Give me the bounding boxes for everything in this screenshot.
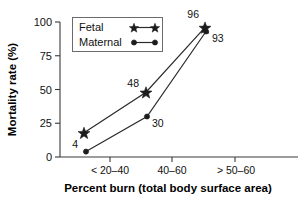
y-tick-label-0: 0 xyxy=(46,151,52,163)
x-category-label-1: 40–60 xyxy=(157,164,186,176)
y-axis-title: Mortality rate (%) xyxy=(6,43,18,136)
legend-label-fetal: Fetal xyxy=(79,21,103,33)
y-tick-label-75: 75 xyxy=(40,50,52,62)
chart-legend[interactable]: Fetal Maternal xyxy=(73,18,163,52)
maternal-marker-1 xyxy=(144,114,149,119)
point-label-maternal-high: 93 xyxy=(212,32,224,44)
y-tick-label-100: 100 xyxy=(34,16,52,28)
chart-canvas: 100 75 50 25 0 Mortality rate (%) < 20–4… xyxy=(0,0,305,204)
point-label-maternal-low: 4 xyxy=(72,138,78,150)
maternal-marker-0 xyxy=(83,149,88,154)
point-label-fetal-high: 96 xyxy=(187,8,199,20)
y-tick-label-25: 25 xyxy=(40,117,52,129)
point-label-fetal-mid: 48 xyxy=(127,77,139,89)
y-axis xyxy=(55,22,60,157)
point-label-maternal-mid: 30 xyxy=(152,117,164,129)
x-category-label-2: > 50–60 xyxy=(217,164,255,176)
x-axis-title: Percent burn (total body surface area) xyxy=(64,182,272,194)
legend-circle-marker-right xyxy=(152,40,157,45)
y-tick-label-50: 50 xyxy=(40,84,52,96)
legend-circle-marker-left xyxy=(131,40,136,45)
mortality-rate-line-chart: 100 75 50 25 0 Mortality rate (%) < 20–4… xyxy=(0,0,305,204)
legend-label-maternal: Maternal xyxy=(79,36,122,48)
x-category-label-0: < 20–40 xyxy=(91,164,129,176)
fetal-marker-0 xyxy=(78,127,90,138)
x-axis xyxy=(60,157,298,162)
maternal-marker-2 xyxy=(203,29,208,34)
